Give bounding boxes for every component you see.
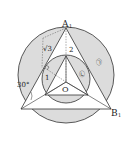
- geometry-figure: A 1 B 1 O 30° √3 2 1 ㉠ ㉡: [0, 0, 131, 145]
- label-region-outer: ㉠: [96, 58, 102, 66]
- label-sqrt3: √3: [43, 45, 52, 53]
- label-one: 1: [45, 74, 49, 82]
- label-angle: 30°: [17, 81, 29, 89]
- label-region-inner: ㉡: [79, 70, 85, 78]
- label-b: B: [111, 108, 118, 118]
- label-a-sub: 1: [69, 23, 72, 29]
- label-b-sub: 1: [118, 112, 121, 118]
- label-a: A: [61, 19, 69, 29]
- label-center-o: O: [62, 85, 69, 94]
- label-two: 2: [69, 46, 73, 54]
